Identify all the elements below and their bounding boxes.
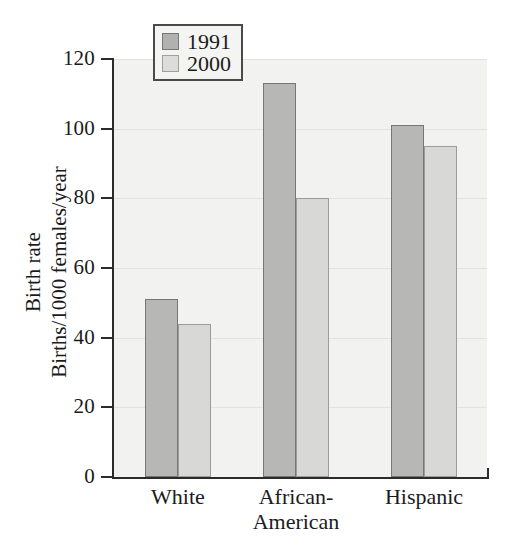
y-axis-tick xyxy=(101,58,113,60)
y-axis-tick xyxy=(101,337,113,339)
bar-white-1991[interactable] xyxy=(145,299,178,477)
y-axis-tick-label: 40 xyxy=(0,327,95,348)
y-axis-tick xyxy=(101,267,113,269)
y-axis-tick-label: 20 xyxy=(0,396,95,417)
y-axis-tick-label: 80 xyxy=(0,187,95,208)
x-axis-right-cap xyxy=(487,468,489,478)
y-axis-tick xyxy=(101,406,113,408)
y-axis-tick xyxy=(101,197,113,199)
gridline xyxy=(113,129,487,130)
chart-legend: 1991 2000 xyxy=(153,24,243,81)
bar-chart-figure: 020406080100120 WhiteAfrican- AmericanHi… xyxy=(0,0,519,555)
x-axis-line xyxy=(112,477,489,479)
bar-hispanic-2000[interactable] xyxy=(424,146,457,477)
legend-entry-2000[interactable]: 2000 xyxy=(162,53,231,74)
bar-hispanic-1991[interactable] xyxy=(391,125,424,477)
y-axis-tick xyxy=(101,476,113,478)
legend-label-2000: 2000 xyxy=(187,53,231,75)
bar-white-2000[interactable] xyxy=(178,324,211,477)
bar-african-american-2000[interactable] xyxy=(296,198,329,477)
y-axis-tick xyxy=(101,128,113,130)
legend-swatch-icon-1991 xyxy=(162,33,179,50)
y-axis-tick-label: 100 xyxy=(0,118,95,139)
x-axis-label-hispanic: Hispanic xyxy=(314,484,519,509)
y-axis-tick-label: 120 xyxy=(0,48,95,69)
y-axis-tick-label: 60 xyxy=(0,257,95,278)
bar-african-american-1991[interactable] xyxy=(263,83,296,477)
legend-swatch-icon-2000 xyxy=(162,55,179,72)
legend-entry-1991[interactable]: 1991 xyxy=(162,31,231,52)
legend-label-1991: 1991 xyxy=(187,31,231,53)
